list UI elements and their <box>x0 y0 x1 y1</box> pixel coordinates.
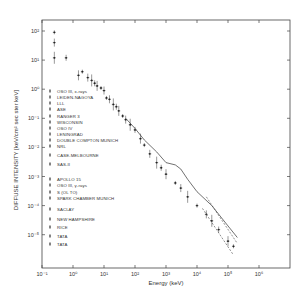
data-point <box>112 98 115 110</box>
svg-text:SPARK CHAMBER MUNICH: SPARK CHAMBER MUNICH <box>57 196 114 201</box>
x-tick-label: 10³ <box>162 271 170 277</box>
data-point <box>105 96 108 100</box>
data-point <box>165 169 168 179</box>
y-tick-label: 10⁻⁴ <box>28 203 40 209</box>
y-tick-label: 10⁻¹ <box>28 115 39 121</box>
data-point <box>217 227 220 233</box>
legend-item: TATA <box>49 234 67 239</box>
model-curve <box>126 118 238 237</box>
y-tick-label: 10⁻⁵ <box>28 232 39 238</box>
data-point <box>65 55 68 61</box>
legend-item: SACLAY <box>49 207 74 212</box>
legend-item: SPARK CHAMBER MUNICH <box>49 196 114 201</box>
svg-text:RICE: RICE <box>57 225 68 230</box>
data-point <box>232 244 235 248</box>
svg-text:DOUBLE COMPTON MUNICH: DOUBLE COMPTON MUNICH <box>57 138 118 143</box>
legend-item: RANGER 3 <box>49 114 80 119</box>
data-point <box>53 39 56 47</box>
data-point <box>179 184 182 192</box>
data-point <box>143 143 146 147</box>
svg-text:LENINGRAD: LENINGRAD <box>57 132 83 137</box>
legend-item: LLL <box>49 101 65 106</box>
legend-item: NEW HAMPSHIRE <box>49 217 95 222</box>
data-point <box>155 157 158 169</box>
x-tick-label: 10⁵ <box>224 271 232 277</box>
plot-frame <box>42 20 290 268</box>
y-tick-label: 10⁻² <box>28 144 39 150</box>
data-point <box>227 236 230 246</box>
svg-text:SAS-II: SAS-II <box>57 162 70 167</box>
legend-item: LEIDEN-NAGOYA <box>49 95 93 100</box>
data-point <box>86 74 89 82</box>
data-point <box>93 80 96 86</box>
legend-item: OSO III, γ-rays <box>49 183 87 188</box>
legend-item: OSO III, x-rays <box>49 89 87 94</box>
x-tick-label: 10² <box>131 271 139 277</box>
data-point <box>77 70 80 80</box>
legend-item: WISCONSIN <box>49 120 83 125</box>
data-point <box>117 106 120 116</box>
svg-text:NRL: NRL <box>57 144 66 149</box>
svg-text:ASE: ASE <box>57 107 66 112</box>
data-point <box>196 204 199 208</box>
diffuse-intensity-chart: 10⁻¹10⁰10¹10²10³10⁴10⁵10⁶ 10²10¹10⁰10⁻¹1… <box>0 0 305 305</box>
data-point <box>99 86 102 90</box>
legend-item: LENINGRAD <box>49 132 83 137</box>
svg-text:LLL: LLL <box>57 101 65 106</box>
x-tick-label: 10¹ <box>100 271 108 277</box>
y-tick-label: 10¹ <box>31 57 39 63</box>
bound-line <box>206 197 237 244</box>
svg-text:OSO III, x-rays: OSO III, x-rays <box>57 89 87 94</box>
legend-item: NRL <box>49 144 66 149</box>
svg-text:S (OL TO): S (OL TO) <box>57 190 78 195</box>
data-point <box>96 81 99 91</box>
y-tick-label: 10⁰ <box>31 86 40 92</box>
bound-line <box>202 208 233 255</box>
data-point <box>174 181 177 185</box>
legend-item: DOUBLE COMPTON MUNICH <box>49 138 118 143</box>
svg-text:SACLAY: SACLAY <box>57 207 74 212</box>
svg-text:CASE-MELBOURNE: CASE-MELBOURNE <box>57 153 99 158</box>
svg-text:LEIDEN-NAGOYA: LEIDEN-NAGOYA <box>57 95 93 100</box>
legend-item: TATA <box>49 242 67 247</box>
svg-text:OSO IV: OSO IV <box>57 126 72 131</box>
x-tick-label: 10⁻¹ <box>37 271 48 277</box>
data-point <box>186 191 189 203</box>
data-point <box>53 30 56 34</box>
data-point <box>90 74 93 86</box>
legend-item: SAS-II <box>49 162 70 167</box>
svg-text:APOLLO 15: APOLLO 15 <box>57 177 82 182</box>
svg-text:TATA: TATA <box>57 242 67 247</box>
data-point <box>103 87 106 95</box>
data-point <box>108 95 111 103</box>
x-tick-label: 10⁶ <box>255 271 263 277</box>
legend-item: RICE <box>49 225 67 230</box>
legend-item: S (OL TO) <box>49 190 78 195</box>
y-tick-label: 10⁻³ <box>28 174 39 180</box>
legend-item: APOLLO 15 <box>49 177 81 182</box>
data-point <box>115 104 118 110</box>
legend-item: OSO IV <box>49 126 72 131</box>
svg-text:RANGER 3: RANGER 3 <box>57 114 80 119</box>
y-tick-label: 10² <box>31 28 39 34</box>
legend-item: ASE <box>49 107 66 112</box>
y-axis-title: DIFFUSE INTENSITY [keV/cm² sec ster keV] <box>13 90 19 211</box>
data-point <box>81 70 84 74</box>
x-axis-title: Energy (keV) <box>148 280 183 286</box>
svg-text:TATA: TATA <box>57 234 67 239</box>
svg-text:WISCONSIN: WISCONSIN <box>57 120 83 125</box>
data-point <box>160 165 163 171</box>
svg-text:NEW HAMPSHIRE: NEW HAMPSHIRE <box>57 217 95 222</box>
data-point <box>148 150 151 158</box>
legend-item: CASE-MELBOURNE <box>49 153 99 158</box>
svg-text:OSO III, γ-rays: OSO III, γ-rays <box>57 183 87 188</box>
x-tick-label: 10⁴ <box>193 271 202 277</box>
x-axis-ticks: 10⁻¹10⁰10¹10²10³10⁴10⁵10⁶ <box>37 20 264 277</box>
data-point <box>121 114 124 118</box>
data-point <box>53 52 56 64</box>
legend: OSO III, x-raysLEIDEN-NAGOYALLLASERANGER… <box>49 89 118 247</box>
x-tick-label: 10⁰ <box>69 271 78 277</box>
